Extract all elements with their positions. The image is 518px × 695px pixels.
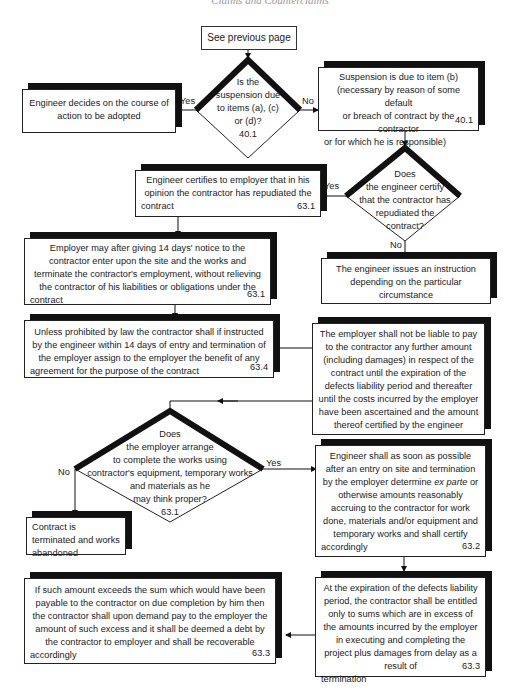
yes-label: Yes [324, 181, 339, 191]
no-label: No [58, 467, 70, 477]
no-label: No [390, 240, 402, 250]
start-box: See previous page [201, 26, 297, 50]
no-label: No [302, 96, 314, 106]
contract-terminated-box: Contract is terminated and works abandon… [26, 517, 126, 555]
yes-label: Yes [180, 96, 195, 106]
employer-notice-box: Employer may after giving 14 days' notic… [24, 238, 271, 305]
decision-suspension-items: Is the suspension due to items (a), (c) … [205, 76, 291, 141]
yes-label: Yes [266, 458, 281, 468]
suspension-item-b-box: Suspension is due to item (b) (necessary… [318, 67, 479, 131]
decision-engineer-certify: Does the engineer certify that the contr… [350, 168, 460, 233]
excess-amount-box: If such amount exceeds the sum which wou… [24, 578, 276, 664]
unless-prohibited-box: Unless prohibited by law the contractor … [24, 320, 274, 378]
decision-employer-arrange: Does the employer arrange to complete th… [85, 428, 255, 519]
expiration-box: At the expiration of the defects liabili… [315, 577, 486, 677]
running-header: Claims and Counterclaims [190, 0, 350, 6]
engineer-certifies-box: Engineer certifies to employer that in h… [135, 170, 321, 217]
employer-not-liable-box: The employer shall not be liable to pay … [312, 323, 485, 435]
engineer-decides-box: Engineer decides on the course of action… [22, 89, 176, 133]
engineer-determine-box: Engineer shall as soon as possible after… [315, 445, 486, 557]
engineer-instruction-box: The engineer issues an instruction depen… [321, 258, 491, 304]
